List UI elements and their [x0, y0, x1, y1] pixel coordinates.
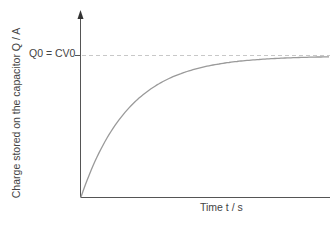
q0-label: Q0 = CV0 [29, 47, 75, 59]
y-axis-label: Charge stored on the capacitor Q / A [10, 3, 22, 223]
x-axis-label-text: Time t / s [200, 201, 243, 213]
chart-canvas [0, 0, 330, 226]
q0-label-text: Q0 = CV0 [29, 47, 75, 59]
y-axis-label-text: Charge stored on the capacitor Q / A [10, 28, 22, 198]
x-axis-label: Time t / s [200, 201, 243, 213]
y-axis-arrow-icon [78, 10, 84, 19]
charging-curve [81, 57, 329, 197]
